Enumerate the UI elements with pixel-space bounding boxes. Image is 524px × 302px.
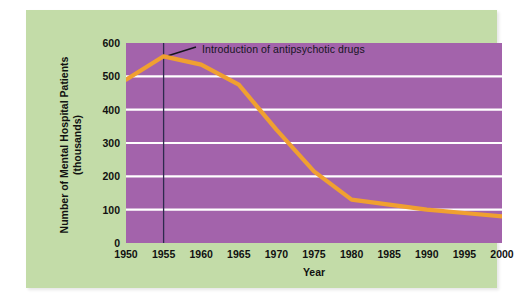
gridlines [126,76,502,209]
y-axis-title-line1: Number of Mental Hospital Patients [58,57,70,234]
y-axis-ticks: 600 500 400 300 200 100 0 [72,43,120,243]
x-axis-ticks: 1950 1955 1960 1965 1970 1975 1980 1985 … [126,248,502,264]
chart-panel: Number of Mental Hospital Patients (thou… [26,10,497,288]
data-line [126,56,502,216]
y-tick-500: 500 [74,71,120,81]
y-tick-0: 0 [74,238,120,248]
y-tick-200: 200 [74,171,120,181]
y-tick-100: 100 [74,205,120,215]
y-tick-600: 600 [74,38,120,48]
annotation-label: Introduction of antipsychotic drugs [202,43,365,55]
x-tick-2000: 2000 [477,248,524,260]
y-tick-300: 300 [74,138,120,148]
chart-figure: Number of Mental Hospital Patients (thou… [0,0,524,302]
plot-svg [126,43,502,243]
y-tick-400: 400 [74,105,120,115]
x-axis-title: Year [126,266,502,278]
plot-area [126,43,502,243]
